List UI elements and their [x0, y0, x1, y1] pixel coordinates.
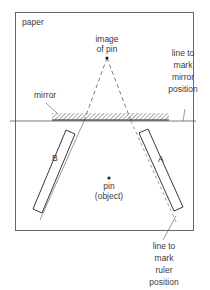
paper-label: paper	[22, 17, 44, 28]
ruler-a[interactable]	[139, 129, 183, 211]
mirror-label: mirror	[34, 90, 56, 101]
mirror-position-leader	[183, 109, 185, 121]
ruler-b-position-line	[40, 121, 84, 220]
ruler-b[interactable]	[33, 130, 75, 213]
ruler-a-label: A	[158, 154, 164, 164]
pin-label-line1: pin	[94, 181, 124, 192]
ruler-position-label-2: mark	[145, 253, 183, 264]
pin-dot[interactable]	[107, 176, 110, 179]
sight-line-left-dashed	[84, 58, 107, 121]
mirror-label-leader	[46, 103, 58, 114]
mirror-position-label-2: mark	[160, 60, 206, 71]
ruler-position-label-1: line to	[145, 241, 183, 252]
mirror-position-label-1: line to	[160, 48, 206, 59]
mirror-position-label-3: mirror	[160, 72, 206, 83]
ruler-a-position-line	[131, 121, 176, 222]
mirror	[52, 113, 169, 120]
ruler-b-label: B	[52, 153, 58, 163]
ruler-position-label-4: position	[145, 277, 183, 288]
image-label-line2: of pin	[92, 44, 122, 55]
image-label-line1: image	[92, 34, 122, 45]
ruler-position-leader	[163, 216, 176, 240]
ruler-position-label-3: ruler	[145, 265, 183, 276]
sight-line-right-dashed	[107, 58, 131, 121]
image-of-pin-dot	[105, 56, 108, 59]
pin-label-line2: (object)	[88, 191, 130, 202]
mirror-position-label-4: position	[160, 84, 206, 95]
